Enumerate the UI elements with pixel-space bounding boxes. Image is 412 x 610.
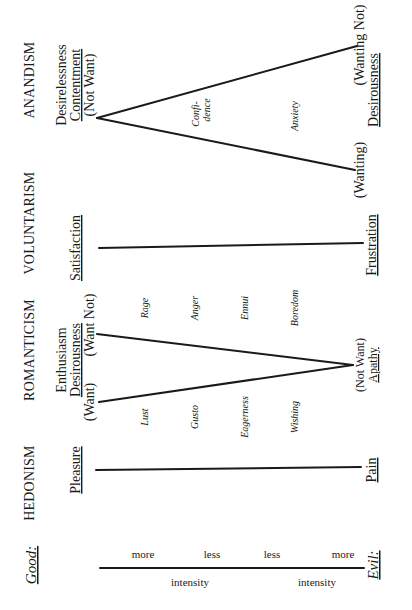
anandism-right-arm — [97, 46, 357, 118]
term-boredom: Boredom — [289, 290, 300, 326]
label-desirousness-bottom: Desirousness — [366, 53, 381, 127]
rotated-diagram-page: Good: Evil: more less less more intensit… — [0, 0, 412, 610]
axis-label-more-bottom: more — [332, 548, 355, 560]
term-anger: Anger — [189, 296, 200, 322]
label-not-want: (Not Want) — [82, 53, 98, 116]
column-anandism: ANANDISM Desirelessness Contentment (Not… — [22, 4, 381, 198]
axis-label-more-top: more — [132, 548, 155, 560]
label-satisfaction: Satisfaction — [68, 215, 83, 281]
voluntarism-line — [99, 243, 363, 248]
axis-label-less-bottom: less — [264, 548, 281, 560]
term-rage: Rage — [139, 297, 150, 319]
evil-label: Evil: — [365, 550, 381, 580]
term-ennui: Ennui — [239, 296, 250, 321]
column-hedonism: HEDONISM Pleasure Pain — [22, 445, 379, 521]
label-pleasure: Pleasure — [68, 446, 83, 493]
label-desirelessness: Desirelessness — [54, 44, 69, 126]
column-voluntarism: VOLUNTARISM Satisfaction Frustration — [22, 171, 379, 281]
heading-voluntarism: VOLUNTARISM — [22, 171, 37, 274]
heading-anandism: ANANDISM — [22, 41, 37, 118]
romanticism-left-arm — [99, 365, 353, 402]
heading-hedonism: HEDONISM — [22, 445, 37, 521]
label-not-want-apathy: (Not Want) — [353, 338, 367, 392]
axis-label-intensity-bottom: intensity — [298, 576, 336, 588]
label-contentment: Contentment — [68, 49, 83, 121]
romanticism-right-arm — [97, 334, 353, 365]
label-pain: Pain — [364, 458, 379, 483]
axis-label-intensity-top: intensity — [171, 576, 209, 588]
intensity-axis: Good: Evil: more less less more intensit… — [23, 546, 381, 588]
label-apathy: Apathy — [366, 347, 380, 382]
term-confidence-2: dence — [201, 98, 212, 122]
term-confidence-1: Confi- — [190, 101, 201, 127]
heading-romanticism: ROMANTICISM — [22, 299, 37, 401]
good-evil-diagram: Good: Evil: more less less more intensit… — [0, 0, 412, 610]
hedonism-line — [96, 467, 361, 470]
label-wanting: (Wanting) — [352, 141, 368, 198]
axis-label-less-top: less — [204, 548, 221, 560]
term-gusto: Gusto — [189, 405, 200, 429]
term-wishing: Wishing — [289, 401, 300, 433]
column-romanticism: ROMANTICISM Enthusiasm Desirousness (Wan… — [22, 290, 380, 439]
label-want: (Want) — [82, 382, 98, 421]
label-frustration: Frustration — [364, 214, 379, 275]
term-lust: Lust — [139, 408, 150, 426]
term-eagerness: Eagerness — [239, 396, 250, 439]
label-enthusiasm: Enthusiasm — [54, 327, 69, 392]
term-anxiety: Anxiety — [289, 100, 300, 132]
label-desirousness-top: Desirousness — [68, 323, 83, 397]
anandism-left-arm — [97, 118, 355, 170]
label-want-not: (Want Not) — [82, 293, 98, 356]
good-label: Good: — [23, 546, 39, 584]
